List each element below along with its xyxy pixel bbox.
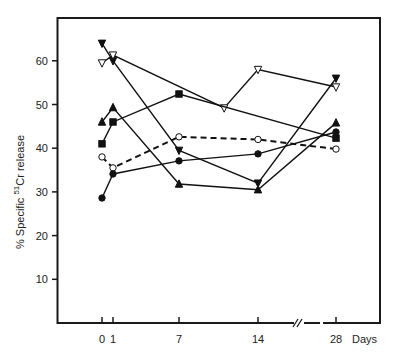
series-line xyxy=(102,43,336,183)
chart: 102030405060 0171428 Days % Specific 51C… xyxy=(0,0,394,361)
circle-filled-marker xyxy=(110,171,116,177)
x-axis: 0171428 xyxy=(99,317,342,345)
x-tick-label: 28 xyxy=(330,333,342,345)
y-tick-label: 20 xyxy=(36,230,48,242)
series-open-circle xyxy=(99,134,339,171)
circle-open-marker xyxy=(110,165,116,171)
circle-filled-marker xyxy=(176,158,182,164)
x-tick-label: 0 xyxy=(99,333,105,345)
x-tick-label: 7 xyxy=(176,333,182,345)
circle-filled-marker xyxy=(99,195,105,201)
down-triangle-open-marker xyxy=(332,84,339,91)
circle-filled-marker xyxy=(255,151,261,157)
square-filled-marker xyxy=(110,119,116,125)
series-line xyxy=(102,132,336,198)
down-triangle-open-marker xyxy=(98,60,105,67)
y-tick-label: 10 xyxy=(36,273,48,285)
y-tick-label: 30 xyxy=(36,186,48,198)
plot-frame xyxy=(58,18,381,323)
series-filled-square xyxy=(99,91,339,147)
series-group xyxy=(98,40,339,201)
series-filled-up-triangle xyxy=(98,103,339,193)
square-filled-marker xyxy=(99,141,105,147)
circle-open-marker xyxy=(333,146,339,152)
x-tick-label: 14 xyxy=(252,333,264,345)
circle-open-marker xyxy=(99,154,105,160)
square-filled-marker xyxy=(176,91,182,97)
up-triangle-filled-marker xyxy=(109,103,116,110)
up-triangle-filled-marker xyxy=(332,119,339,126)
axis-break-gap xyxy=(320,319,323,327)
y-tick-label: 60 xyxy=(36,55,48,67)
y-tick-label: 50 xyxy=(36,99,48,111)
series-line xyxy=(102,55,336,108)
series-filled-circle xyxy=(99,129,339,201)
series-open-down-triangle xyxy=(98,52,339,112)
circle-filled-marker xyxy=(333,129,339,135)
x-axis-title: Days xyxy=(352,333,378,345)
series-line xyxy=(102,108,336,190)
y-axis-title: % Specific 51Cr release xyxy=(12,135,26,249)
circle-open-marker xyxy=(176,134,182,140)
series-filled-down-triangle xyxy=(98,40,339,187)
y-axis: 102030405060 xyxy=(36,55,58,285)
y-tick-label: 40 xyxy=(36,142,48,154)
circle-open-marker xyxy=(255,136,261,142)
square-filled-marker xyxy=(333,135,339,141)
x-tick-label: 1 xyxy=(110,333,116,345)
